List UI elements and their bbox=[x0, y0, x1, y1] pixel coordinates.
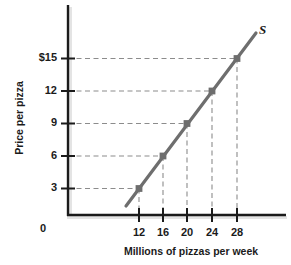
supply-curve-figure: $15 12 9 6 3 12 16 20 24 28 0 Price per … bbox=[0, 0, 291, 265]
y-tick-label-15: $15 bbox=[12, 52, 57, 63]
figure-shadow bbox=[67, 7, 287, 219]
data-point bbox=[136, 185, 143, 192]
data-point bbox=[209, 88, 216, 95]
data-point bbox=[184, 120, 191, 127]
x-tick-label-20: 20 bbox=[173, 227, 201, 238]
x-tick-label-24: 24 bbox=[198, 227, 226, 238]
origin-label: 0 bbox=[40, 222, 46, 234]
data-point bbox=[234, 55, 241, 62]
y-tick-label-3: 3 bbox=[12, 182, 57, 193]
vertical-guide-lines bbox=[139, 59, 237, 216]
supply-curve-label: S bbox=[259, 22, 266, 38]
y-axis-title: Price per pizza bbox=[13, 63, 25, 173]
x-tick-label-28: 28 bbox=[223, 227, 251, 238]
y-axis bbox=[61, 5, 75, 216]
x-axis bbox=[67, 208, 286, 222]
data-point bbox=[160, 153, 167, 160]
x-axis-title: Millions of pizzas per week bbox=[96, 245, 286, 257]
